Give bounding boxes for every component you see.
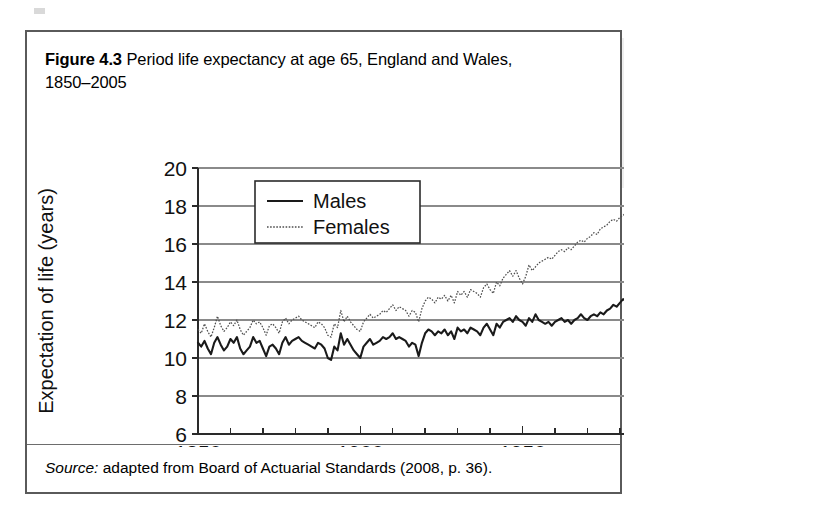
y-tick-label: 20 [164,157,187,180]
y-tick-label: 10 [164,347,187,370]
figure-container: Figure 4.3 Period life expectancy at age… [25,30,622,494]
legend-label-males: Males [313,190,366,212]
legend-label-females: Females [313,216,390,238]
source-divider [27,444,620,445]
source-note: Source: adapted from Board of Actuarial … [45,459,492,477]
chart-area: 68101214161820 1850190019502000 Expectat… [27,127,624,447]
y-tick-label: 8 [175,385,187,408]
line-chart: 68101214161820 1850190019502000 Expectat… [27,127,624,447]
figure-number: Figure 4.3 [45,50,122,68]
figure-caption: Figure 4.3 Period life expectancy at age… [45,48,605,95]
x-axis-ticks [198,426,624,434]
chart-legend: Males Females [255,181,420,243]
scan-artifact-top [34,8,45,14]
y-tick-label: 16 [164,233,187,256]
source-label: Source: [45,459,98,476]
figure-caption-line2: 1850–2005 [45,73,127,91]
y-tick-label: 14 [164,271,188,294]
source-text: adapted from Board of Actuarial Standard… [103,459,492,476]
y-tick-label: 12 [164,309,187,332]
y-axis-tick-labels: 68101214161820 [164,157,188,446]
y-tick-label: 18 [164,195,187,218]
figure-caption-line1: Period life expectancy at age 65, Englan… [126,50,512,68]
y-axis-title: Expectation of life (years) [35,188,57,414]
